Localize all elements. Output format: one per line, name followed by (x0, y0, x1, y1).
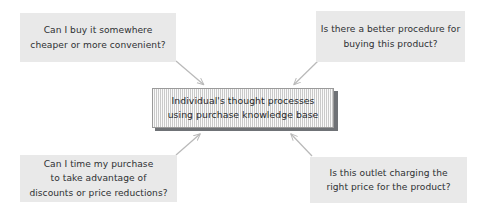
question-line-1: Can I time my purchase (44, 159, 154, 169)
question-box-top-left-text: Can I buy it somewhere cheaper or more c… (24, 23, 172, 51)
arrow-bottom-left-to-center (176, 134, 200, 155)
center-line-2: using purchase knowledge base (168, 109, 319, 120)
question-line-1: Is this outlet charging the (329, 168, 447, 178)
diagram-canvas: Can I buy it somewhere cheaper or more c… (0, 0, 487, 214)
center-node: Individual's thought processes using pur… (152, 88, 334, 128)
question-line-1: Can I buy it somewhere (44, 25, 153, 35)
question-box-bottom-right-text: Is this outlet charging the right price … (314, 166, 463, 194)
question-box-top-left: Can I buy it somewhere cheaper or more c… (20, 13, 176, 62)
question-box-bottom-left-text: Can I time my purchase to take advantage… (24, 157, 173, 199)
question-line-3: discounts or price reductions? (29, 188, 167, 198)
center-line-1: Individual's thought processes (172, 95, 315, 106)
question-box-top-right-text: Is there a better procedure for buying t… (320, 22, 461, 50)
arrow-bottom-right-to-center (291, 134, 312, 156)
question-line-2: buying this product? (343, 39, 437, 49)
question-box-bottom-left: Can I time my purchase to take advantage… (20, 155, 177, 202)
question-line-2: to take advantage of (51, 173, 147, 183)
arrow-top-right-to-center (294, 61, 318, 85)
center-node-shadow-right (334, 91, 338, 131)
question-line-2: right price for the product? (326, 182, 450, 192)
question-box-bottom-right: Is this outlet charging the right price … (310, 157, 467, 203)
question-line-1: Is there a better procedure for (321, 24, 461, 34)
arrow-top-left-to-center (176, 61, 204, 85)
question-box-top-right: Is there a better procedure for buying t… (316, 11, 465, 62)
center-node-text: Individual's thought processes using pur… (153, 94, 333, 123)
center-node-shadow-bottom (155, 128, 338, 131)
question-line-2: cheaper or more convenient? (30, 40, 165, 50)
